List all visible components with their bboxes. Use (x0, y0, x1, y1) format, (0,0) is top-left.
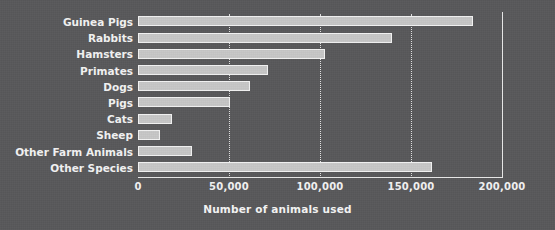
y-label-hamsters: Hamsters (0, 46, 133, 62)
bar-row (138, 46, 502, 62)
y-label-cats: Cats (0, 111, 133, 127)
bar-chart: Guinea PigsRabbitsHamstersPrimatesDogsPi… (0, 0, 555, 230)
bar-sheep[interactable] (138, 130, 160, 140)
axis-line-right (502, 12, 503, 178)
bar-row (138, 63, 502, 79)
bar-dogs[interactable] (138, 81, 250, 91)
bar-row (138, 30, 502, 46)
y-label-pigs: Pigs (0, 95, 133, 111)
x-tick-200000: 200,000 (479, 181, 526, 192)
bar-other-species[interactable] (138, 162, 432, 172)
y-label-sheep: Sheep (0, 127, 133, 143)
x-tick-50000: 50,000 (209, 181, 249, 192)
y-label-other-farm-animals: Other Farm Animals (0, 144, 133, 160)
x-tick-0: 0 (134, 181, 141, 192)
y-label-guinea-pigs: Guinea Pigs (0, 14, 133, 30)
bar-row (138, 111, 502, 127)
bar-row (138, 95, 502, 111)
bar-other-farm-animals[interactable] (138, 146, 192, 156)
y-label-primates: Primates (0, 63, 133, 79)
x-tick-100000: 100,000 (297, 181, 344, 192)
bar-row (138, 14, 502, 30)
bar-row (138, 79, 502, 95)
bar-guinea-pigs[interactable] (138, 16, 473, 26)
bar-pigs[interactable] (138, 97, 230, 107)
bar-row (138, 127, 502, 143)
plot-area (138, 14, 502, 176)
axis-line-bottom (138, 177, 503, 178)
x-tick-150000: 150,000 (388, 181, 435, 192)
bar-rabbits[interactable] (138, 33, 392, 43)
y-label-dogs: Dogs (0, 79, 133, 95)
y-label-other-species: Other Species (0, 160, 133, 176)
bar-primates[interactable] (138, 65, 268, 75)
bar-cats[interactable] (138, 114, 172, 124)
bar-hamsters[interactable] (138, 49, 325, 59)
y-label-rabbits: Rabbits (0, 30, 133, 46)
bar-row (138, 160, 502, 176)
x-axis-title: Number of animals used (0, 203, 555, 215)
bar-row (138, 144, 502, 160)
